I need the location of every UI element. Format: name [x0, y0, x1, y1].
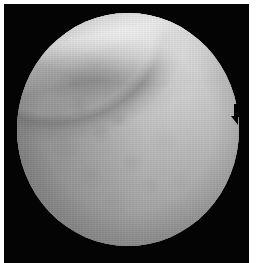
endoscope-frame — [4, 4, 249, 263]
circular-field-of-view — [17, 13, 239, 246]
image-page — [0, 0, 257, 263]
edge-notch-taper — [231, 116, 238, 125]
vertical-interlace-texture — [17, 13, 239, 246]
